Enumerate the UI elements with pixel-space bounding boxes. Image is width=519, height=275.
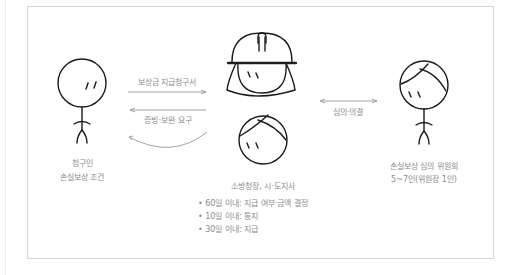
committee-figure-icon [400,61,448,144]
authority-duties-list: • 60일 이내: 지급 여부·금액 결정 • 10일 이내: 통지 • 30일… [198,197,308,236]
authority-person-icon [239,115,287,164]
authority-name: 소방청장, 시·도지사 [231,180,295,193]
firefighter-helmet-icon [227,33,296,96]
deliberation-arrow-label: 심의·의결 [333,106,364,119]
committee-name: 손실보상 심의 위원회 [390,160,458,173]
claimant-figure-icon [58,59,106,143]
claim-arrow-icon [128,90,206,94]
supplement-arrow-icon [130,108,206,112]
deliberation-arrow-icon [320,99,377,103]
duty-item: • 60일 이내: 지급 여부·금액 결정 [198,197,308,210]
committee-detail: 5~7인(위원장 1인) [391,173,457,186]
claimant-role: 손실보상 조건 [60,171,105,184]
supplement-arrow-label: 증빙·보완 요구 [144,114,191,127]
return-curve-arrow-icon [129,132,207,147]
duty-item: • 10일 이내: 통지 [198,210,308,223]
duty-item: • 30일 이내: 지급 [198,223,308,236]
claimant-name: 청구인 [72,157,93,170]
claim-arrow-label: 보상금 지급청구서 [138,76,197,89]
